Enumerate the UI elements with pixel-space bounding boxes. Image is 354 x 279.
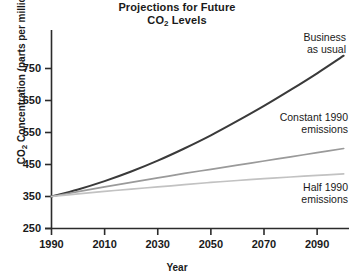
series-label-constant-line1: Constant 1990 — [280, 112, 348, 124]
series-label-constant-line2: emissions — [280, 124, 348, 136]
y-axis-title-rest: Concentration (parts per million) — [16, 0, 27, 145]
y-axis-title-subscript: 2 — [20, 145, 29, 149]
series-label-half-1990: Half 1990 emissions — [301, 182, 348, 205]
x-axis-tick-label: 2090 — [287, 239, 347, 250]
series-label-constant-1990: Constant 1990 emissions — [280, 112, 348, 135]
x-axis-tick-label: 1990 — [22, 239, 82, 250]
series-label-half-line2: emissions — [301, 194, 348, 206]
series-line-1 — [52, 149, 344, 197]
x-axis-ticks — [52, 229, 318, 236]
series-label-business-line2: as usual — [303, 44, 346, 56]
x-axis-tick-label: 2070 — [234, 239, 294, 250]
y-axis-ticks — [45, 69, 52, 229]
y-axis-tick-label: 250 — [1, 223, 41, 234]
x-axis-tick-label: 2050 — [181, 239, 241, 250]
series-label-business-line1: Business — [303, 32, 346, 44]
x-axis-tick-label: 2010 — [75, 239, 135, 250]
y-axis-title-co: CO — [16, 149, 27, 164]
series-label-business-as-usual: Business as usual — [303, 32, 346, 55]
y-axis-tick-label: 350 — [1, 191, 41, 202]
x-axis-tick-label: 2030 — [128, 239, 188, 250]
series-label-half-line1: Half 1990 — [301, 182, 348, 194]
y-axis-title: CO2 Concentration (parts per million) — [16, 0, 27, 181]
x-axis-title: Year — [0, 262, 354, 273]
co2-projection-chart: Projections for Future CO2 Levels 250350… — [0, 0, 354, 279]
